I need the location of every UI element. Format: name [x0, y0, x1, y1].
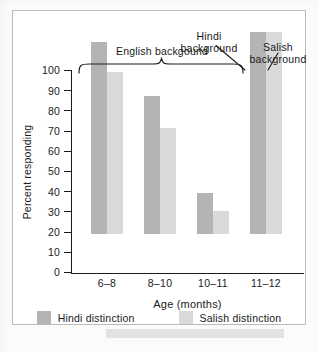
annotation-salish-background-text: Salish background: [250, 41, 307, 66]
chart-legend: Hindi distinction Salish distinction: [13, 311, 305, 324]
caption-band-clipped: [106, 329, 284, 338]
figure-frame: Percent responding 010203040506070809010…: [12, 10, 306, 325]
legend-swatch-hindi-icon: [37, 311, 51, 324]
legend-label-salish: Salish distinction: [200, 312, 282, 324]
legend-item-salish: Salish distinction: [179, 311, 282, 324]
legend-label-hindi: Hindi distinction: [58, 312, 135, 324]
caption-text-clipped: [106, 344, 318, 352]
plot-area: Percent responding 010203040506070809010…: [13, 11, 305, 324]
legend-swatch-salish-icon: [179, 311, 193, 324]
annotation-hindi-background-text: Hindi background: [181, 30, 238, 55]
legend-item-hindi: Hindi distinction: [37, 311, 135, 324]
annotation-salish-background: Salish background: [247, 28, 309, 66]
annotation-hindi-background: Hindi background: [171, 17, 247, 55]
